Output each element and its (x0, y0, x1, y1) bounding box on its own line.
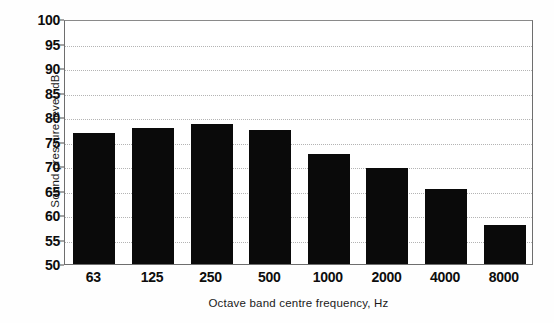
y-axis-tick-label: 60 (45, 208, 60, 224)
gridline (65, 46, 532, 47)
bar (366, 168, 408, 264)
y-axis-tick-label: 100 (38, 12, 60, 28)
x-axis-tick-label: 1000 (313, 269, 343, 285)
y-axis-tick-labels: 50556065707580859095100 (24, 20, 60, 265)
y-axis-tick-label: 90 (45, 61, 60, 77)
x-axis-tick-label: 4000 (430, 269, 460, 285)
y-axis-tick-label: 70 (45, 159, 60, 175)
y-axis-tick-label: 80 (45, 110, 60, 126)
gridline (65, 119, 532, 120)
x-axis-tick-label: 250 (199, 269, 221, 285)
gridline (65, 70, 532, 71)
bar (132, 128, 174, 264)
y-axis-tick-label: 85 (45, 86, 60, 102)
y-axis-tick-label: 50 (45, 257, 60, 273)
y-axis-tick-label: 55 (45, 233, 60, 249)
bar (308, 154, 350, 264)
bar (249, 130, 291, 264)
y-axis-tick-label: 65 (45, 184, 60, 200)
bar-chart-figure: Sound pressure level, dB 505560657075808… (0, 0, 554, 323)
y-axis-tick-label: 95 (45, 37, 60, 53)
x-axis-tick-label: 500 (258, 269, 280, 285)
x-axis-tick-labels: 631252505001000200040008000 (64, 269, 533, 291)
bar (425, 189, 467, 264)
x-axis-tick-label: 63 (86, 269, 101, 285)
y-axis-tick-label: 75 (45, 135, 60, 151)
x-axis-tick-label: 8000 (489, 269, 519, 285)
bar (484, 225, 526, 264)
x-axis-title: Octave band centre frequency, Hz (64, 297, 533, 309)
bar (191, 124, 233, 264)
gridline (65, 95, 532, 96)
x-axis-tick-label: 2000 (371, 269, 401, 285)
x-axis-tick-label: 125 (141, 269, 163, 285)
plot-area (64, 20, 533, 265)
bar (73, 133, 115, 264)
